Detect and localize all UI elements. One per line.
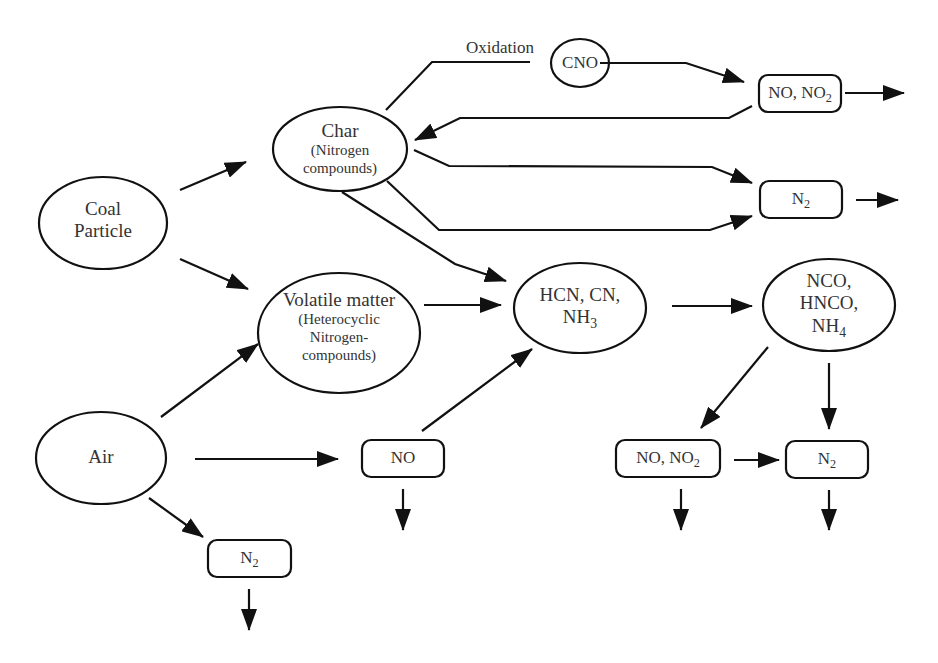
edge-no-hcn: [422, 349, 532, 431]
edge-coal-volatile: [180, 259, 248, 289]
edge-char-n2-upper: [414, 150, 752, 183]
edge-char-n2-lower: [387, 181, 752, 230]
label-char: Char (Nitrogen compounds): [280, 120, 400, 178]
label-top-n2: N2: [760, 189, 842, 209]
edge-air-volatile: [161, 344, 258, 417]
edge-coal-char: [180, 162, 246, 190]
label-hcn: HCN, CN, NH3: [515, 284, 645, 329]
label-bottom-n2-right: N2: [786, 449, 868, 469]
label-mid-no: NO: [362, 448, 444, 468]
label-bottom-no-no2: NO, NO2: [616, 448, 720, 468]
edge-char-cno: [386, 62, 530, 110]
label-air: Air: [51, 446, 151, 468]
label-cno: CNO: [551, 53, 609, 73]
edge-air-n2: [149, 498, 203, 537]
label-bottom-n2-left: N2: [208, 548, 291, 568]
label-coal-particle: Coal Particle: [53, 198, 153, 243]
label-volatile: Volatile matter (Heterocyclic Nitrogen- …: [262, 289, 416, 364]
edge-cno-no-no2: [600, 63, 744, 82]
label-nco: NCO, HNCO, NH4: [769, 270, 889, 337]
edge-no-no2-char: [415, 106, 752, 140]
edge-label-oxidation: Oxidation: [450, 38, 550, 58]
label-top-no-no2: NO, NO2: [759, 83, 841, 103]
edge-char-hcn: [342, 192, 506, 281]
edge-nco-no-no2: [701, 347, 768, 428]
